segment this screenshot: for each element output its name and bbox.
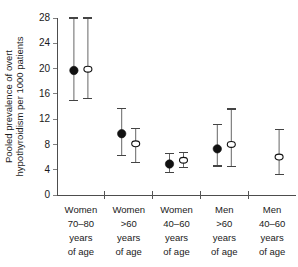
data-point (131, 129, 140, 163)
marker-filled-circle (118, 129, 126, 137)
x-axis-category-labels: Women70–80yearsof ageWomen>60yearsof age… (65, 204, 286, 257)
x-category-label-line: years (213, 232, 236, 243)
x-category-label-line: 40–60 (259, 218, 285, 229)
y-tick-label: 24 (39, 37, 51, 48)
data-point (275, 130, 284, 175)
y-axis-title-line: Pooled prevalence of overt (3, 50, 14, 163)
marker-filled-circle (70, 66, 78, 74)
data-points-layer (69, 18, 283, 175)
data-point (179, 153, 188, 168)
y-tick-label: 0 (44, 189, 50, 200)
data-point (213, 124, 222, 166)
x-category-label-line: of age (259, 246, 285, 257)
x-category-label-line: of age (211, 246, 237, 257)
x-category-label-line: of age (68, 246, 94, 257)
marker-open-circle (275, 154, 283, 160)
axis-lines (57, 18, 296, 195)
y-axis-title-line: hypothyroidism per 1000 patients (14, 36, 25, 176)
y-axis-ticks: 0481216202428 (39, 12, 57, 200)
prevalence-scatter-chart: Pooled prevalence of overthypothyroidism… (0, 0, 298, 267)
x-category-label-line: 40–60 (163, 218, 189, 229)
y-tick-label: 4 (44, 164, 50, 175)
marker-filled-circle (213, 145, 221, 153)
marker-open-circle (227, 142, 235, 148)
data-point (227, 109, 236, 167)
chart-figure: Pooled prevalence of overthypothyroidism… (0, 0, 298, 267)
marker-open-circle (180, 157, 188, 163)
data-point (117, 108, 126, 155)
x-category-label-line: Women (112, 204, 145, 215)
x-category-label-line: Men (263, 204, 281, 215)
x-category-label-line: >60 (121, 218, 137, 229)
x-category-label-line: Women (65, 204, 98, 215)
data-point (165, 153, 174, 172)
x-category-label-line: of age (115, 246, 141, 257)
y-tick-label: 12 (39, 113, 51, 124)
x-category-label-line: years (165, 232, 188, 243)
x-category-label-line: >60 (216, 218, 232, 229)
y-tick-label: 8 (44, 139, 50, 150)
x-category-label-line: years (260, 232, 283, 243)
y-axis-title: Pooled prevalence of overthypothyroidism… (3, 36, 25, 176)
x-category-label-line: 70–80 (68, 218, 94, 229)
marker-open-circle (132, 141, 140, 147)
y-tick-label: 16 (39, 88, 51, 99)
data-point (83, 18, 92, 98)
y-tick-label: 20 (39, 63, 51, 74)
x-category-label-line: years (117, 232, 140, 243)
x-category-label-line: years (69, 232, 92, 243)
y-tick-label: 28 (39, 12, 51, 23)
marker-filled-circle (165, 160, 173, 168)
x-category-label-line: Men (215, 204, 233, 215)
data-point (69, 18, 78, 100)
marker-open-circle (84, 66, 92, 72)
x-category-label-line: of age (163, 246, 189, 257)
x-category-label-line: Women (160, 204, 193, 215)
